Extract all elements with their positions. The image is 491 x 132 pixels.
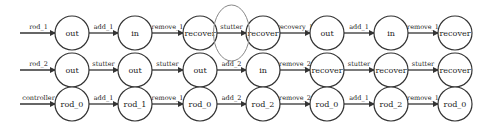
state-label: rod_0 <box>444 100 467 109</box>
state-node: rod_2 <box>246 87 280 121</box>
state-label: rod_0 <box>189 100 212 109</box>
state-node: out <box>55 53 89 87</box>
state-node: rod_1 <box>118 87 152 121</box>
state-label: recover <box>312 66 343 75</box>
state-node: out <box>183 53 217 87</box>
state-transition-diagram: rod_1add_1remove_1stutterrecovery_1add_1… <box>0 0 491 132</box>
transition-label: remove_2 <box>279 94 311 102</box>
state-node: in <box>118 16 152 50</box>
state-label: recover <box>248 29 279 38</box>
transition-label: add_1 <box>349 23 369 31</box>
state-label: out <box>128 66 142 75</box>
state-label: rod_1 <box>124 100 147 109</box>
state-node: in <box>374 16 408 50</box>
state-node: out <box>118 53 152 87</box>
state-node: recover <box>438 16 472 50</box>
state-label: rod_2 <box>252 100 275 109</box>
state-label: in <box>259 66 267 75</box>
transition-label: add_1 <box>94 23 114 31</box>
diagram-svg: rod_1add_1remove_1stutterrecovery_1add_1… <box>0 0 491 132</box>
state-node: rod_0 <box>183 87 217 121</box>
transition-label: recovery_1 <box>277 23 313 31</box>
transition-label: stutter <box>220 23 243 31</box>
state-label: in <box>387 29 395 38</box>
input-label: rod_1 <box>29 23 48 31</box>
state-label: out <box>193 66 207 75</box>
state-node: recover <box>310 53 344 87</box>
state-node: recover <box>246 16 280 50</box>
state-label: out <box>65 66 79 75</box>
state-label: recover <box>185 29 216 38</box>
transition-label: stutter <box>412 60 435 68</box>
diagram-row: rod_2stutterstutteradd_2remove_2stutters… <box>20 53 472 87</box>
transition-label: add_1 <box>349 94 369 102</box>
state-label: rod_0 <box>61 100 84 109</box>
state-node: recover <box>438 53 472 87</box>
transition-label: remove_2 <box>279 60 311 68</box>
state-label: recover <box>440 66 471 75</box>
transition-label: add_1 <box>94 94 114 102</box>
transition-label: remove_1 <box>152 94 184 102</box>
state-node: recover <box>183 16 217 50</box>
input-label: controller <box>22 94 55 102</box>
state-label: rod_0 <box>316 100 339 109</box>
state-node: out <box>55 16 89 50</box>
transition-label: remove_1 <box>407 23 439 31</box>
transition-label: stutter <box>156 60 179 68</box>
state-node: rod_0 <box>438 87 472 121</box>
input-label: rod_2 <box>29 60 48 68</box>
state-node: rod_0 <box>55 87 89 121</box>
state-label: rod_2 <box>380 100 403 109</box>
state-node: in <box>246 53 280 87</box>
state-node: recover <box>374 53 408 87</box>
state-node: rod_2 <box>374 87 408 121</box>
transition-label: remove_1 <box>152 23 184 31</box>
transition-label: add_2 <box>222 94 242 102</box>
diagram-row: controlleradd_1remove_1add_2remove_2add_… <box>20 87 472 121</box>
transition-label: remove_1 <box>407 94 439 102</box>
diagram-row: rod_1add_1remove_1stutterrecovery_1add_1… <box>20 16 472 50</box>
state-label: out <box>65 29 79 38</box>
state-node: rod_0 <box>310 87 344 121</box>
state-label: out <box>320 29 334 38</box>
transition-label: stutter <box>348 60 371 68</box>
transition-label: stutter <box>92 60 115 68</box>
state-label: recover <box>440 29 471 38</box>
state-node: out <box>310 16 344 50</box>
state-label: in <box>131 29 139 38</box>
state-label: recover <box>376 66 407 75</box>
